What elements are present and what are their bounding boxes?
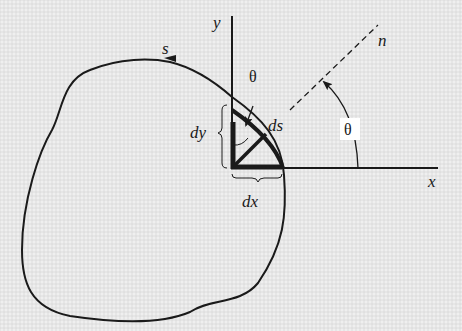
small-theta-label: θ [249,68,257,85]
dy-brace [218,105,227,168]
dx-brace [232,174,282,182]
x-axis-label: x [427,172,436,191]
large-theta-label: θ [344,121,352,138]
normal-label: n [378,31,387,50]
arc-length-label: s [162,39,169,58]
closed-curve [22,60,285,322]
dx-label: dx [242,192,259,211]
dy-label: dy [190,123,207,142]
y-axis-label: y [211,13,221,32]
normal-element [233,134,266,167]
ds-label: ds [268,116,284,135]
normal-line-dashed [290,25,378,110]
diagram-canvas: y x s n ds dx dy θ θ [0,0,462,331]
